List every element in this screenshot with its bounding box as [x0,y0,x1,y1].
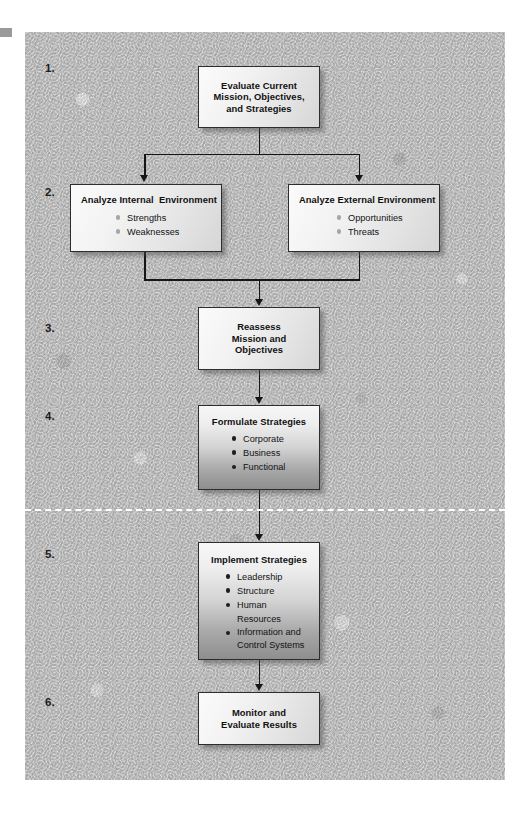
box-reassess-mission-objectives[interactable]: Reassess Mission and Objectives [198,307,320,370]
connector-internal-to-merge [144,252,146,280]
list-item: Threats [336,225,429,239]
box-external-bullets: Opportunities Threats [336,211,429,239]
step-number-2: 2. [45,186,55,198]
step-number-1: 1. [45,62,55,74]
box-implement-bullets: Leadership Structure Human Resources Inf… [225,570,312,653]
phase-divider-dashed-line [25,509,505,511]
box-reassess-title: Reassess Mission and Objectives [232,321,287,356]
arrowhead-to-implement [255,534,263,541]
connector-implement-to-monitor [259,660,261,686]
connector-reassess-to-formulate [259,370,261,398]
box-external-title: Analyze External Environment [299,194,429,206]
list-item: Human Resources [225,598,312,626]
list-item: Information and Control Systems [225,626,312,652]
connector-external-to-merge [359,252,361,280]
list-item: Business [231,446,311,460]
box-monitor-title: Monitor and Evaluate Results [221,707,297,730]
step-number-3: 3. [45,322,55,334]
arrowhead-to-formulate [255,397,263,404]
box-evaluate-current-mission[interactable]: Evaluate Current Mission, Objectives, an… [198,66,320,128]
box-analyze-internal-environment[interactable]: Analyze Internal Environment Strengths W… [70,184,222,252]
box-internal-title: Analyze Internal Environment [81,194,211,206]
list-item: Leadership [225,570,312,584]
page-register-mark [0,28,12,37]
connector-formulate-to-implement [259,490,261,535]
diagram-stage: 1. 2. 3. 4. 5. 6. Evaluate Current Missi… [0,0,513,814]
arrowhead-to-monitor [255,684,263,691]
connector-bus-to-internal [144,154,146,176]
box-formulate-bullets: Corporate Business Functional [231,432,311,475]
connector-merge-bus [144,279,360,281]
box-formulate-strategies[interactable]: Formulate Strategies Corporate Business … [198,405,320,490]
step-number-4: 4. [45,410,55,422]
connector-evaluate-to-bus [259,128,261,155]
box-analyze-external-environment[interactable]: Analyze External Environment Opportuniti… [288,184,440,252]
connector-bus-to-external [359,154,361,176]
connector-merge-to-reassess [259,279,261,300]
box-evaluate-title: Evaluate Current Mission, Objectives, an… [213,80,304,115]
box-formulate-title: Formulate Strategies [207,416,311,428]
arrowhead-to-reassess [255,299,263,306]
list-item: Corporate [231,432,311,446]
arrowhead-to-external [355,175,363,182]
connector-split-bus [144,154,360,156]
box-implement-strategies[interactable]: Implement Strategies Leadership Structur… [198,542,320,660]
step-number-6: 6. [45,696,55,708]
box-implement-title: Implement Strategies [206,554,312,566]
list-item: Structure [225,584,312,598]
box-monitor-evaluate-results[interactable]: Monitor and Evaluate Results [198,692,320,745]
list-item: Opportunities [336,211,429,225]
arrowhead-to-internal [140,175,148,182]
list-item: Weaknesses [115,225,211,239]
step-number-5: 5. [45,548,55,560]
list-item: Strengths [115,211,211,225]
list-item: Functional [231,460,311,474]
box-internal-bullets: Strengths Weaknesses [115,211,211,239]
